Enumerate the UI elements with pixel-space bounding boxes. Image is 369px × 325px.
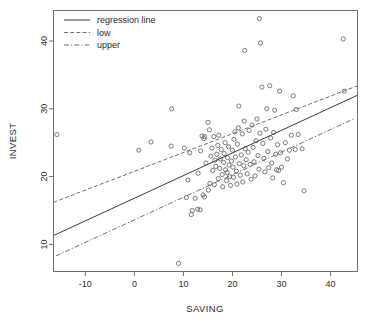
y-tick-label: 30 (40, 104, 50, 114)
x-tick-label: 0 (132, 279, 137, 289)
x-tick-label: 10 (178, 279, 188, 289)
legend-label: regression line (97, 15, 156, 25)
x-axis-title: SAVING (186, 303, 224, 314)
x-tick-label: 30 (276, 279, 286, 289)
legend-label: low (97, 28, 111, 38)
plot-background (0, 0, 369, 325)
y-tick-label: 10 (40, 239, 50, 249)
legend-label: upper (97, 40, 120, 50)
x-tick-label: -10 (79, 279, 92, 289)
scatter-plot: -10010203040 10203040 SAVING INVEST regr… (0, 0, 369, 325)
chart-container: -10010203040 10203040 SAVING INVEST regr… (0, 0, 369, 325)
y-tick-label: 40 (40, 36, 50, 46)
x-tick-label: 40 (326, 279, 336, 289)
y-axis-title: INVEST (7, 123, 18, 160)
x-tick-label: 20 (227, 279, 237, 289)
y-tick-label: 20 (40, 172, 50, 182)
